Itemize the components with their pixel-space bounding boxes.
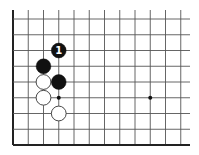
black-stone: [36, 59, 51, 74]
black-stone: [51, 75, 66, 90]
white-stone-icon: [51, 106, 66, 121]
black-stone-icon: [36, 59, 51, 74]
white-stone: [36, 90, 51, 105]
go-board: 1: [0, 0, 199, 155]
black-stone: 1: [51, 43, 66, 58]
stone-move-number: 1: [55, 45, 62, 56]
white-stone-icon: [36, 75, 51, 90]
stones: 1: [36, 43, 66, 121]
white-stone-icon: [36, 90, 51, 105]
white-stone: [51, 106, 66, 121]
star-point-icon: [57, 96, 61, 100]
white-stone: [36, 75, 51, 90]
star-point-icon: [148, 96, 152, 100]
black-stone-icon: [51, 75, 66, 90]
